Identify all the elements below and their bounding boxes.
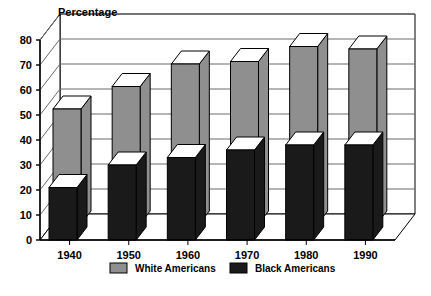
legend-swatch — [110, 263, 127, 273]
legend-label: Black Americans — [255, 263, 336, 274]
bar-black-1960-side — [195, 145, 205, 241]
bar-black-1950-front — [108, 165, 136, 240]
y-axis-tick-label: 50 — [20, 109, 32, 121]
chart-container: 0102030405060708019401950196019701980199… — [0, 0, 431, 296]
bar-black-1980-front — [286, 145, 314, 240]
bar-black-1980-side — [314, 132, 324, 240]
x-axis-tick-label: 1980 — [294, 249, 318, 261]
bar-black-1960 — [167, 145, 205, 241]
x-axis-tick-label: 1990 — [353, 249, 377, 261]
bar-black-1950 — [108, 152, 146, 240]
legend-label: White Americans — [135, 263, 216, 274]
y-axis-tick-label: 20 — [20, 184, 32, 196]
bar-black-1940 — [49, 175, 87, 241]
bar-chart: 0102030405060708019401950196019701980199… — [0, 0, 431, 296]
y-axis-tick-label: 70 — [20, 59, 32, 71]
bar-black-1970 — [227, 137, 265, 240]
y-axis-tick-label: 60 — [20, 84, 32, 96]
chart-title-text: Percentage — [58, 6, 117, 18]
chart-legend: White AmericansBlack Americans — [110, 263, 336, 274]
legend-item-black-americans[interactable]: Black Americans — [230, 263, 336, 274]
bar-black-1990 — [345, 132, 383, 240]
x-axis: 194019501960197019801990 — [40, 240, 395, 261]
bar-black-1970-side — [255, 137, 265, 240]
y-axis-tick-label: 80 — [20, 34, 32, 46]
legend-swatch — [230, 263, 247, 273]
y-axis: 01020304050607080 — [20, 34, 40, 246]
bar-black-1990-front — [345, 145, 373, 240]
x-axis-tick-label: 1950 — [117, 249, 141, 261]
bar-black-1960-front — [167, 158, 195, 241]
x-axis-tick-label: 1940 — [57, 249, 81, 261]
y-axis-tick-label: 10 — [20, 209, 32, 221]
y-axis-tick-label: 40 — [20, 134, 32, 146]
y-axis-tick-label: 0 — [26, 234, 32, 246]
bar-black-1940-front — [49, 188, 77, 241]
x-axis-tick-label: 1970 — [235, 249, 259, 261]
bar-black-1990-side — [373, 132, 383, 240]
x-axis-tick-label: 1960 — [176, 249, 200, 261]
legend-item-white-americans[interactable]: White Americans — [110, 263, 216, 274]
y-axis-tick-label: 30 — [20, 159, 32, 171]
bar-black-1970-front — [227, 150, 255, 240]
bar-black-1950-side — [136, 152, 146, 240]
bar-black-1980 — [286, 132, 324, 240]
chart-title: Percentage — [58, 6, 117, 18]
